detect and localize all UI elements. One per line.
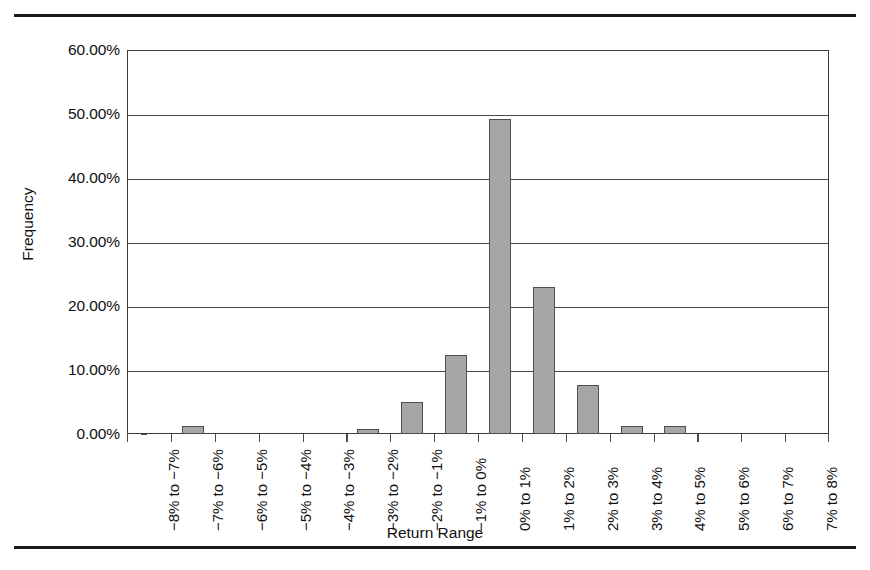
- y-axis-tick-label: 40.00%: [20, 170, 120, 186]
- bar: [664, 426, 686, 434]
- x-axis-tick-label: 6% to 7%: [769, 443, 807, 531]
- x-axis-tick-label: −5% to −4%: [287, 443, 325, 531]
- x-axis-title: Return Range: [0, 524, 870, 542]
- bar: [621, 426, 643, 434]
- x-axis-tick-mark: [127, 434, 128, 442]
- y-axis-tick-label: 60.00%: [20, 42, 120, 58]
- x-axis-tick-label: −1% to 0%: [462, 443, 500, 531]
- bar: [533, 287, 555, 434]
- y-axis-tick-label: 20.00%: [20, 298, 120, 314]
- y-axis-tick-labels: 0.00%10.00%20.00%30.00%40.00%50.00%60.00…: [20, 50, 120, 434]
- x-axis-tick-label: 1% to 2%: [550, 443, 588, 531]
- y-axis-tick-label: 0.00%: [20, 426, 120, 442]
- x-axis-tick-mark: [434, 434, 435, 442]
- x-axis-tick-label: −7% to −6%: [199, 443, 237, 531]
- x-axis-tick-label: 5% to 6%: [725, 443, 763, 531]
- x-axis-tick-mark: [478, 434, 479, 442]
- x-axis-tick-label: −2% to −1%: [418, 443, 456, 531]
- x-axis-tick-mark: [697, 434, 698, 442]
- x-axis-tick-label: 7% to 8%: [813, 443, 851, 531]
- x-axis-tick-mark: [171, 434, 172, 442]
- y-axis-tick-label: 10.00%: [20, 362, 120, 378]
- x-axis-tick-label: 3% to 4%: [638, 443, 676, 531]
- x-axis-tick-mark: [610, 434, 611, 442]
- x-axis-tick-label: 2% to 3%: [594, 443, 632, 531]
- histogram-chart: Frequency 0.00%10.00%20.00%30.00%40.00%5…: [0, 0, 870, 570]
- x-axis-tick-mark: [259, 434, 260, 442]
- x-axis-tick-labels: −8% to −7%−7% to −6%−6% to −5%−5% to −4%…: [127, 443, 829, 531]
- x-axis-tick-mark: [303, 434, 304, 442]
- x-axis-tick-mark: [390, 434, 391, 442]
- x-axis-tick-mark: [522, 434, 523, 442]
- x-axis-tick-label: −6% to −5%: [243, 443, 281, 531]
- y-axis-tick-label: 50.00%: [20, 106, 120, 122]
- x-axis-tick-mark: [741, 434, 742, 442]
- bar: [577, 385, 599, 434]
- x-axis-tick-label: −4% to −3%: [330, 443, 368, 531]
- x-axis-tick-label: 4% to 5%: [681, 443, 719, 531]
- x-axis-tick-marks: [127, 434, 829, 443]
- x-axis-tick-mark: [215, 434, 216, 442]
- bar-series: [127, 50, 829, 434]
- y-axis-tick-label: 30.00%: [20, 234, 120, 250]
- x-axis-tick-mark: [828, 434, 829, 442]
- bar: [445, 355, 467, 434]
- bar: [182, 426, 204, 434]
- bar: [489, 119, 511, 434]
- x-axis-tick-label: −8% to −7%: [155, 443, 193, 531]
- x-axis-tick-label: 0% to 1%: [506, 443, 544, 531]
- x-axis-tick-mark: [785, 434, 786, 442]
- x-axis-tick-mark: [346, 434, 347, 442]
- x-axis-tick-mark: [566, 434, 567, 442]
- x-axis-tick-label: −3% to −2%: [374, 443, 412, 531]
- bar: [401, 402, 423, 434]
- x-axis-tick-mark: [654, 434, 655, 442]
